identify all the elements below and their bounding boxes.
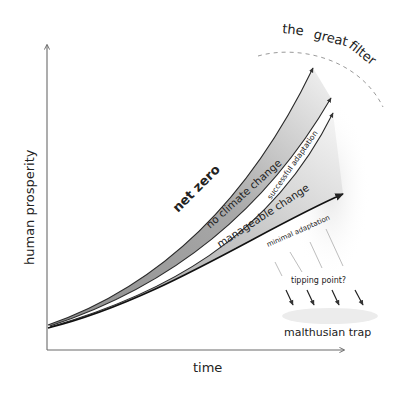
great-filter-word: filter (346, 38, 380, 69)
y-axis-label: human prosperity (22, 149, 37, 265)
tipping-arrow-2 (307, 290, 314, 305)
great-filter-word: the (282, 21, 305, 38)
title-great-filter-group: thegreatfilter (282, 21, 380, 68)
decline-line-2 (290, 252, 302, 272)
label-tipping-point: tipping point? (291, 276, 346, 285)
tipping-arrow-4 (355, 290, 363, 305)
label-net-zero: net zero (170, 162, 223, 215)
x-axis-label: time (193, 360, 222, 375)
tipping-arrow-1 (286, 290, 293, 305)
prosperity-scenarios-diagram: thegreatfilter human prosperity time net… (0, 0, 410, 397)
haze-malthusian (282, 308, 378, 324)
tipping-arrow-3 (332, 290, 339, 305)
label-malthusian-trap: malthusian trap (284, 326, 371, 339)
decline-line-1 (275, 262, 282, 276)
great-filter-word: great (312, 26, 349, 49)
